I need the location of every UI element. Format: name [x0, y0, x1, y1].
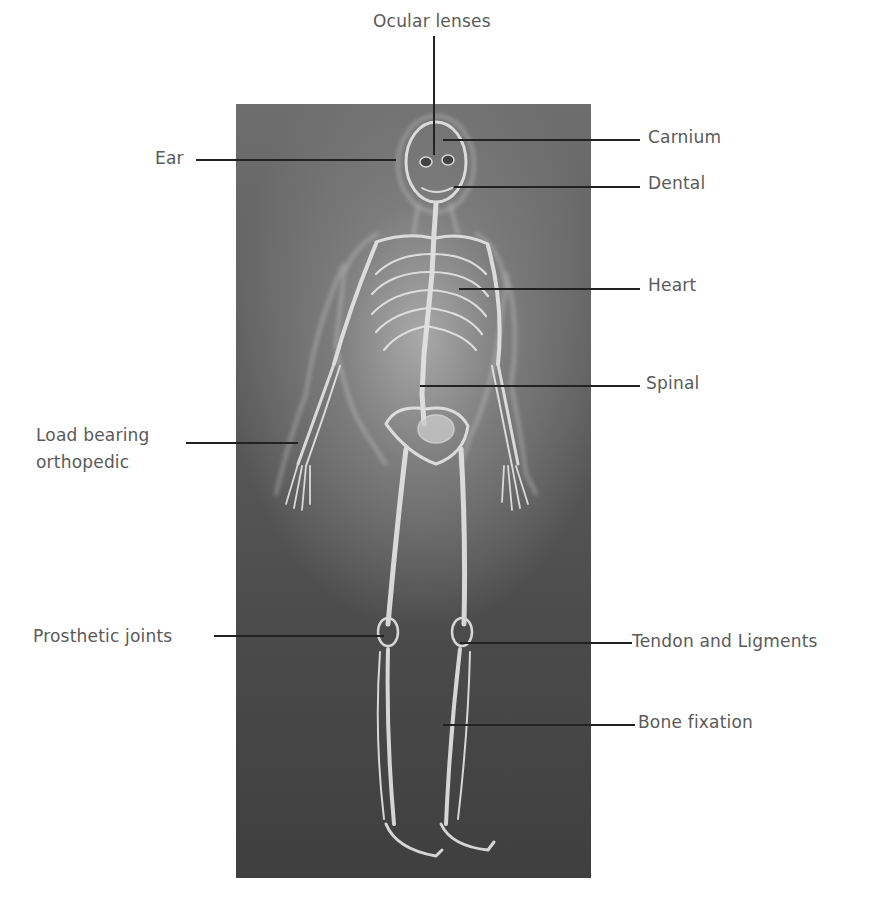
leader-line-dental — [454, 186, 640, 188]
leader-line-heart — [459, 288, 640, 290]
label-ocular-lenses: Ocular lenses — [373, 11, 491, 32]
leader-line-spinal — [420, 385, 640, 387]
leader-line-ocular-lenses — [433, 36, 435, 155]
leader-line-prosthetic-joints — [214, 635, 384, 637]
human-skeleton-illustration — [236, 104, 591, 878]
leader-line-tendon-ligments — [460, 642, 632, 644]
label-ear: Ear — [155, 148, 184, 169]
label-carnium: Carnium — [648, 127, 721, 148]
label-tendon-ligments: Tendon and Ligments — [632, 631, 818, 652]
label-heart: Heart — [648, 275, 696, 296]
leader-line-ear — [196, 159, 396, 161]
leader-line-bone-fixation — [443, 724, 635, 726]
label-spinal: Spinal — [646, 373, 699, 394]
diagram-canvas: Ocular lenses Carnium Ear Dental Heart S… — [0, 0, 896, 907]
label-load-bearing-orthopedic: Load bearing orthopedic — [36, 425, 150, 473]
leader-line-carnium — [443, 139, 640, 141]
label-prosthetic-joints: Prosthetic joints — [33, 626, 172, 647]
label-dental: Dental — [648, 173, 705, 194]
label-load-bearing-line1: Load bearing — [36, 425, 150, 446]
leader-line-load-bearing — [186, 442, 298, 444]
label-bone-fixation: Bone fixation — [638, 712, 753, 733]
label-load-bearing-line2: orthopedic — [36, 452, 150, 473]
